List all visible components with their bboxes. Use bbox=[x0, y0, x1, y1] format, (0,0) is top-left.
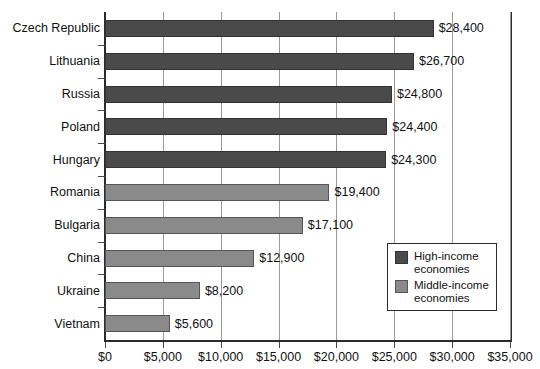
y-axis-tick bbox=[98, 78, 105, 79]
category-label-romania: Romania bbox=[0, 185, 100, 199]
bar-value-label: $5,600 bbox=[170, 317, 213, 331]
bar-hungary[interactable] bbox=[105, 151, 386, 168]
bar-value-label: $26,700 bbox=[414, 54, 464, 68]
bar-row: $24,300 bbox=[105, 151, 510, 168]
category-label-vietnam: Vietnam bbox=[0, 317, 100, 331]
bar-value-label: $28,400 bbox=[434, 21, 484, 35]
x-axis-tick-label: $30,000 bbox=[430, 350, 475, 364]
x-axis-tick bbox=[163, 342, 164, 348]
category-label-hungary: Hungary bbox=[0, 153, 100, 167]
y-axis-tick bbox=[98, 110, 105, 111]
legend-item-middle[interactable]: Middle-incomeeconomies bbox=[395, 279, 489, 304]
x-axis-tick bbox=[394, 342, 395, 348]
bar-ukraine[interactable] bbox=[105, 282, 200, 299]
x-axis-tick-label: $10,000 bbox=[198, 350, 243, 364]
x-axis-tick bbox=[221, 342, 222, 348]
bar-bulgaria[interactable] bbox=[105, 217, 303, 234]
y-axis-tick bbox=[98, 307, 105, 308]
legend-label-line2: economies bbox=[414, 263, 479, 276]
bar-row: $26,700 bbox=[105, 53, 510, 70]
bar-value-label: $19,400 bbox=[329, 185, 379, 199]
y-axis-tick bbox=[98, 45, 105, 46]
bar-row: $24,400 bbox=[105, 118, 510, 135]
bar-chart: Czech RepublicLithuaniaRussiaPolandHunga… bbox=[0, 0, 540, 369]
y-axis-tick bbox=[98, 143, 105, 144]
legend-label: Middle-incomeeconomies bbox=[414, 279, 489, 304]
category-label-lithuania: Lithuania bbox=[0, 54, 100, 68]
bar-value-label: $24,400 bbox=[387, 120, 437, 134]
x-axis-tick-label: $5,000 bbox=[144, 350, 182, 364]
legend-swatch-middle bbox=[395, 280, 408, 293]
category-label-poland: Poland bbox=[0, 120, 100, 134]
x-axis-tick-label: $15,000 bbox=[256, 350, 301, 364]
bar-row: $19,400 bbox=[105, 184, 510, 201]
x-axis-tick bbox=[510, 342, 511, 348]
bar-czech-republic[interactable] bbox=[105, 20, 434, 37]
category-label-ukraine: Ukraine bbox=[0, 284, 100, 298]
bar-poland[interactable] bbox=[105, 118, 387, 135]
bar-value-label: $17,100 bbox=[303, 218, 353, 232]
gridline bbox=[510, 12, 511, 340]
legend-label-line1: High-income bbox=[414, 250, 479, 263]
bar-row: $17,100 bbox=[105, 217, 510, 234]
bar-row: $28,400 bbox=[105, 20, 510, 37]
category-label-bulgaria: Bulgaria bbox=[0, 218, 100, 232]
x-axis-tick bbox=[452, 342, 453, 348]
bar-value-label: $24,300 bbox=[386, 153, 436, 167]
x-axis-tick-label: $20,000 bbox=[314, 350, 359, 364]
x-axis-tick-label: $0 bbox=[98, 350, 112, 364]
legend-label-line2: economies bbox=[414, 292, 489, 305]
bar-romania[interactable] bbox=[105, 184, 329, 201]
y-axis-tick bbox=[98, 274, 105, 275]
y-axis-tick bbox=[98, 176, 105, 177]
legend-item-high[interactable]: High-incomeeconomies bbox=[395, 250, 489, 275]
bar-value-label: $12,900 bbox=[254, 251, 304, 265]
legend: High-incomeeconomiesMiddle-incomeeconomi… bbox=[387, 243, 497, 311]
x-axis-tick-label: $25,000 bbox=[372, 350, 417, 364]
legend-swatch-high bbox=[395, 251, 408, 264]
x-axis-tick bbox=[336, 342, 337, 348]
bar-lithuania[interactable] bbox=[105, 53, 414, 70]
category-label-russia: Russia bbox=[0, 87, 100, 101]
bar-vietnam[interactable] bbox=[105, 315, 170, 332]
bar-russia[interactable] bbox=[105, 86, 392, 103]
bar-value-label: $24,800 bbox=[392, 87, 442, 101]
x-axis-tick bbox=[279, 342, 280, 348]
category-label-china: China bbox=[0, 251, 100, 265]
bar-value-label: $8,200 bbox=[200, 284, 243, 298]
y-axis-tick bbox=[98, 242, 105, 243]
bar-china[interactable] bbox=[105, 250, 254, 267]
x-axis-tick-label: $35,000 bbox=[487, 350, 532, 364]
legend-label-line1: Middle-income bbox=[414, 279, 489, 292]
bar-row: $5,600 bbox=[105, 315, 510, 332]
legend-label: High-incomeeconomies bbox=[414, 250, 479, 275]
category-axis-labels: Czech RepublicLithuaniaRussiaPolandHunga… bbox=[0, 0, 100, 369]
x-axis-tick bbox=[105, 342, 106, 348]
bar-row: $24,800 bbox=[105, 86, 510, 103]
category-label-czech-republic: Czech Republic bbox=[0, 21, 100, 35]
y-axis-tick bbox=[98, 209, 105, 210]
